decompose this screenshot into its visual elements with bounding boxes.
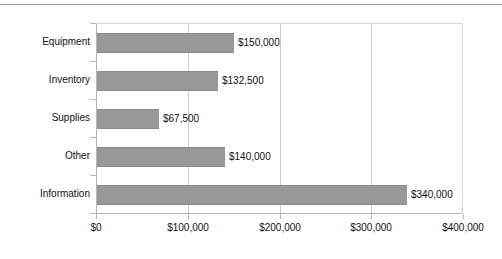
- x-axis-label-100000: $100,000: [167, 222, 209, 233]
- category-label-supplies: Supplies: [0, 99, 90, 137]
- x-axis-tick-300000: [371, 214, 372, 219]
- bar-rows: $150,000 $132,500 $67,500 $140,000 $340,…: [97, 24, 462, 213]
- bar-row-information: $340,000: [97, 176, 462, 214]
- bar-value-other: $140,000: [225, 147, 271, 167]
- bar-value-information: $340,000: [407, 185, 453, 205]
- bar-information: [97, 185, 407, 205]
- bar-value-supplies: $67,500: [159, 109, 199, 129]
- bar-inventory: [97, 71, 218, 91]
- plot-area: $150,000 $132,500 $67,500 $140,000 $340,…: [96, 23, 463, 214]
- x-axis-tick-200000: [280, 214, 281, 219]
- bar-equipment: [97, 33, 234, 53]
- x-axis-label-400000: $400,000: [442, 222, 484, 233]
- top-divider-rule: [0, 4, 502, 5]
- bar-row-equipment: $150,000: [97, 24, 462, 62]
- x-axis-tick-400000: [463, 214, 464, 219]
- bar-supplies: [97, 109, 159, 129]
- bar-row-inventory: $132,500: [97, 62, 462, 100]
- bar-chart: Equipment Inventory Supplies Other Infor…: [0, 0, 502, 259]
- x-axis-label-0: $0: [90, 222, 101, 233]
- x-axis-tick-100000: [188, 214, 189, 219]
- bar-value-inventory: $132,500: [218, 71, 264, 91]
- x-axis-label-200000: $200,000: [259, 222, 301, 233]
- x-axis-label-300000: $300,000: [350, 222, 392, 233]
- category-label-equipment: Equipment: [0, 23, 90, 61]
- bar-row-other: $140,000: [97, 138, 462, 176]
- bar-other: [97, 147, 225, 167]
- category-axis-labels: Equipment Inventory Supplies Other Infor…: [0, 23, 90, 214]
- bar-value-equipment: $150,000: [234, 33, 280, 53]
- x-axis-tick-0: [96, 214, 97, 219]
- bar-row-supplies: $67,500: [97, 100, 462, 138]
- category-label-inventory: Inventory: [0, 61, 90, 99]
- category-label-information: Information: [0, 175, 90, 213]
- category-label-other: Other: [0, 137, 90, 175]
